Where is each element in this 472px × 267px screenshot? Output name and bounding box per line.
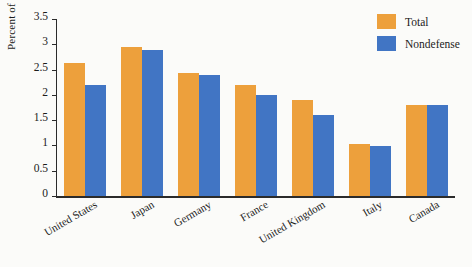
bar-group	[114, 19, 171, 196]
bar-total	[178, 73, 199, 196]
y-axis-tick-label: 1.5	[34, 112, 48, 123]
y-axis-tick-mark	[52, 196, 57, 197]
bar-nondefense	[256, 95, 277, 196]
x-axis-label-text: France	[238, 198, 270, 223]
bar-group	[284, 19, 341, 196]
x-axis-label-text: Germany	[172, 198, 213, 229]
bar-total	[406, 105, 427, 196]
y-axis-tick-label: 0	[42, 188, 48, 199]
bar-total	[349, 144, 370, 196]
legend-swatch-nondefense-icon	[377, 36, 396, 51]
y-axis-title-container: Percent of GDP	[0, 0, 30, 200]
x-axis-labels: United StatesJapanGermanyFranceUnited Ki…	[57, 198, 455, 267]
bar-total	[292, 100, 313, 196]
legend-item-nondefense: Nondefense	[377, 36, 472, 51]
legend-label-total: Total	[405, 16, 428, 28]
bar-total	[64, 63, 85, 196]
x-axis-label-text: Japan	[129, 198, 157, 221]
bar-group	[171, 19, 228, 196]
y-axis-tick-label: 2.5	[34, 62, 48, 73]
bar-nondefense	[142, 50, 163, 196]
bar-nondefense	[85, 85, 106, 196]
bar-nondefense	[199, 75, 220, 196]
chart-legend: Total Nondefense	[377, 14, 472, 58]
bar-chart: Percent of GDP 3.532.521.510.50 United S…	[0, 0, 472, 267]
bar-group	[228, 19, 285, 196]
y-axis-tick-label: 0.5	[34, 163, 48, 174]
bar-nondefense	[427, 105, 448, 196]
x-axis-label-text: United States	[42, 198, 99, 238]
y-axis-tick-label: 3.5	[34, 11, 48, 22]
legend-item-total: Total	[377, 14, 472, 29]
bar-group	[57, 19, 114, 196]
bar-nondefense	[370, 146, 391, 196]
legend-label-nondefense: Nondefense	[405, 38, 460, 50]
x-axis-label-text: Canada	[406, 198, 441, 225]
y-axis-tick-label: 1	[42, 137, 48, 148]
legend-swatch-total-icon	[377, 14, 396, 29]
x-axis-label-text: Italy	[360, 198, 383, 218]
y-axis-tick-label: 3	[42, 36, 48, 47]
bar-nondefense	[313, 115, 334, 196]
y-axis-tick-label: 2	[42, 87, 48, 98]
bar-total	[235, 85, 256, 196]
y-axis-title: Percent of GDP	[5, 0, 17, 50]
bar-total	[121, 47, 142, 196]
